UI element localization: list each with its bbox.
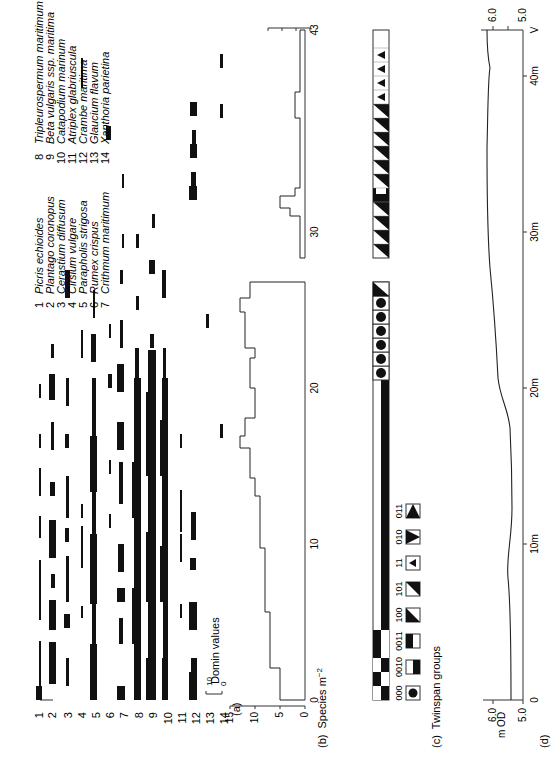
histogram-x-ticks: 0 10 20 30 43 [309,24,320,703]
row-label-4: 4 [76,712,88,718]
species-name-7: Crithmum maritimum [99,192,111,294]
svg-text:0011: 0011 [394,631,404,650]
row-label-10: 10 [162,712,174,724]
panel-c: 000 0010 0011 100 101 [373,30,442,748]
twinspan-bar-left [373,282,389,700]
elevation-axis-right [481,26,523,30]
row-label-7: 7 [118,712,130,718]
svg-text:43: 43 [309,24,320,36]
svg-text:0010: 0010 [394,657,404,677]
panel-b: 15 10 5 0 0 10 20 30 43 (b)Species m−2 [224,24,328,748]
elevation-ticks-right: 6.0 5.0 [487,8,528,22]
domin-legend: 10 0 Domin values [205,617,228,694]
legend-11: 11 [394,556,420,570]
twinspan-bar-right [373,30,389,258]
row-label-2: 2 [46,712,58,718]
panel-d: 6.0 5.0 m OD 6.0 5.0 0 10m 20m 30m 40m V [481,8,550,748]
species-legend-col2: 8 Tripleurospermum maritimum 9 Beta vulg… [33,1,111,164]
figure-canvas: 1 2 3 4 5 6 7 8 9 10 11 12 13 14 [0,0,558,768]
legend-101: 101 [394,581,420,596]
svg-text:30m: 30m [529,222,540,241]
svg-text:100: 100 [394,607,404,622]
svg-text:011: 011 [394,504,404,518]
domin-legend-title: Domin values [209,617,221,684]
row-label-8: 8 [133,712,145,718]
species-row-numbers: 1 2 3 4 5 6 7 8 9 10 11 12 13 14 [33,712,230,724]
panel-c-caption: (c)Twinspan groups [430,646,442,748]
panel-a: 1 2 3 4 5 6 7 8 9 10 11 12 13 14 [33,1,242,724]
svg-text:5.0: 5.0 [517,8,528,22]
legend-011: 011 [394,504,420,518]
svg-text:20m: 20m [529,378,540,397]
svg-text:5: 5 [274,712,285,718]
row-label-5: 5 [90,712,102,718]
svg-text:30: 30 [309,226,320,238]
elevation-ticks-left: 6.0 5.0 [487,708,528,722]
panel-d-label: (d) [538,735,550,748]
svg-text:0: 0 [299,712,310,718]
svg-text:14: 14 [99,152,111,164]
row-label-6: 6 [104,712,116,718]
elevation-axis-left [483,700,523,704]
species-legend: 1 Picris echioides 2 Plantago coronopus … [33,1,111,308]
species-name-14: Xanthoria parietina [99,52,111,145]
species-histogram [240,30,305,700]
elevation-profile-line [487,30,512,700]
svg-text:5.0: 5.0 [517,708,528,722]
svg-text:000: 000 [394,685,404,700]
svg-text:10: 10 [309,538,320,550]
svg-text:15: 15 [224,712,235,724]
species-legend-col1: 1 Picris echioides 2 Plantago coronopus … [33,192,111,308]
svg-text:V: V [529,26,540,33]
svg-text:010: 010 [394,529,404,544]
svg-text:0: 0 [529,697,540,703]
row-label-1: 1 [33,712,45,718]
legend-0010: 0010 [394,657,420,677]
svg-text:11: 11 [394,558,404,567]
row-label-11: 11 [176,712,188,723]
svg-text:40m: 40m [529,66,540,85]
legend-000: 000 [394,685,420,700]
elevation-axis-label: m OD [496,712,507,738]
svg-text:10: 10 [249,712,260,724]
row-label-12: 12 [190,712,202,724]
twinspan-circles [373,296,389,380]
row-label-9: 9 [147,712,159,718]
elevation-x-ticks: 0 10m 20m 30m 40m V [529,26,540,702]
panel-b-caption: (b)Species m−2 [315,668,328,748]
svg-text:101: 101 [394,581,404,596]
row-label-13: 13 [204,712,216,724]
svg-text:6.0: 6.0 [487,8,498,22]
twinspan-legend: 000 0010 0011 100 101 [394,504,420,701]
legend-100: 100 [394,607,420,622]
svg-text:10m: 10m [529,534,540,553]
svg-text:20: 20 [309,382,320,394]
svg-text:7: 7 [99,302,111,308]
legend-0011: 0011 [394,631,420,650]
row-label-3: 3 [62,712,74,718]
legend-010: 010 [394,529,420,544]
